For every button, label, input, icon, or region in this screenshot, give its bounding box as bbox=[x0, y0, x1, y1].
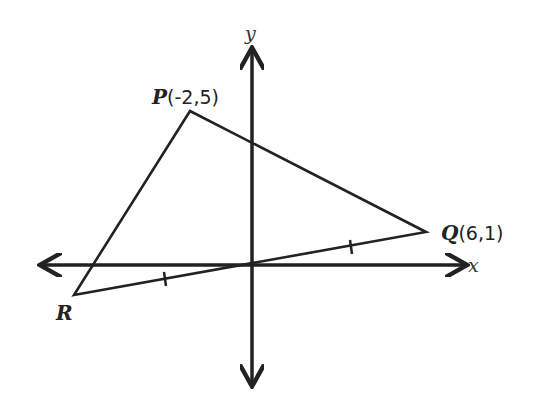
tick-mark-rq-right bbox=[350, 240, 352, 254]
coordinate-diagram: y x P(-2,5) Q(6,1) R bbox=[0, 0, 546, 402]
y-axis-label: y bbox=[244, 22, 256, 44]
point-r-label: R bbox=[55, 301, 73, 325]
point-p-name: P bbox=[151, 85, 168, 109]
tick-mark-rq-left bbox=[164, 272, 166, 286]
point-p-label: P(-2,5) bbox=[151, 85, 219, 109]
point-q-label: Q(6,1) bbox=[441, 221, 503, 245]
point-q-name: Q bbox=[441, 221, 459, 245]
triangle-pqr bbox=[74, 111, 426, 295]
x-axis-label: x bbox=[468, 254, 479, 276]
point-q-coords: (6,1) bbox=[458, 222, 503, 244]
point-p-coords: (-2,5) bbox=[167, 86, 219, 108]
